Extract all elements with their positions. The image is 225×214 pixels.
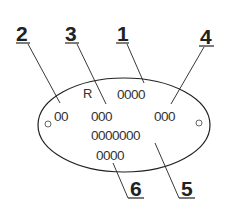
callout-5-leader [155, 143, 179, 198]
callout-5-label: 5 [181, 177, 193, 200]
plate-prefix-r: R [83, 86, 92, 101]
field-1-digits: 0000 [117, 87, 145, 102]
field-6-digits: 0000 [96, 148, 124, 163]
callout-6-label: 6 [130, 177, 142, 200]
callout-1-leader [127, 44, 144, 83]
callout-2-label: 2 [16, 22, 28, 45]
mounting-hole-left [45, 121, 51, 127]
field-4-digits: 000 [154, 109, 175, 124]
plate-diagram: R 0000 00 000 000 0000000 0000 2 3 1 4 6… [0, 0, 225, 214]
callout-1-label: 1 [117, 22, 129, 45]
field-5-digits: 0000000 [91, 128, 140, 143]
field-3-digits: 000 [91, 109, 112, 124]
mounting-hole-right [196, 120, 202, 126]
callout-2-leader [28, 44, 60, 103]
callout-6-leader [113, 163, 128, 198]
callout-4-leader [171, 47, 204, 104]
callout-3-label: 3 [65, 22, 77, 45]
callout-4-label: 4 [200, 25, 212, 48]
field-2-digits: 00 [54, 109, 68, 124]
